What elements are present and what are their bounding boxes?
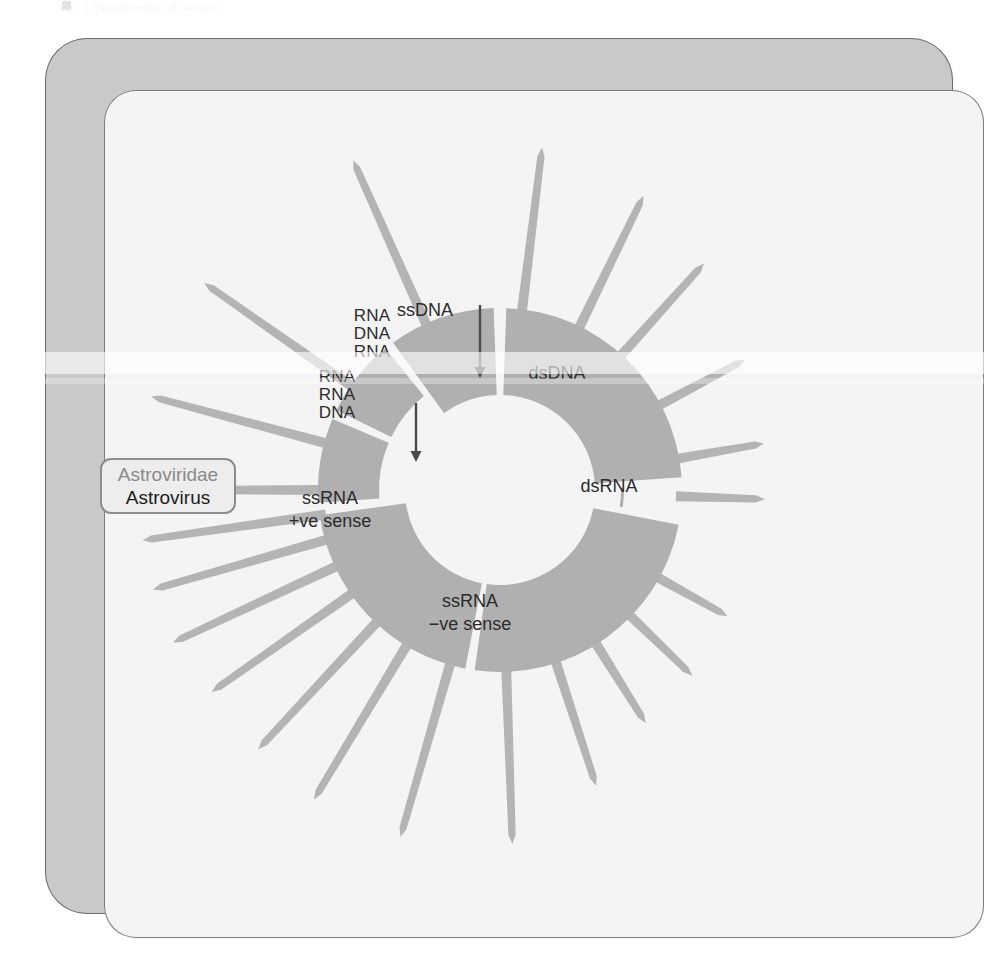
genome-label-dsrna: dsRNA	[580, 475, 637, 498]
highlight-genus-label: Astrovirus	[102, 487, 234, 509]
genome-label-rna-dna-rna-line2: DNA	[354, 325, 391, 343]
genome-label-rna-rna-dna-line1: RNA	[319, 368, 356, 386]
genome-label-dsdna: dsDNA	[528, 362, 585, 385]
genome-label-ssrna-pos-line1: ssRNA	[289, 487, 372, 510]
highlight-family-label: Astroviridae	[102, 464, 234, 486]
figure-page: Fig. 1 Classification of viruses ssDNAds…	[0, 0, 998, 970]
genome-label-ssrna-pos: ssRNA+ve sense	[289, 487, 372, 532]
genome-label-rna-rna-dna: RNARNADNA	[319, 368, 356, 422]
genome-label-rna-rna-dna-line2: RNA	[319, 386, 356, 404]
ghost-header-text: Fig. 1 Classification of viruses	[60, 2, 580, 13]
genome-label-ssrna-pos-line2: +ve sense	[289, 509, 372, 532]
genome-label-rna-dna-rna-line1: RNA	[354, 307, 391, 325]
genome-label-rna-rna-dna-line3: DNA	[319, 404, 356, 422]
genome-label-rna-dna-rna-line3: RNA	[354, 343, 391, 361]
genome-label-ssdna: ssDNA	[397, 299, 453, 322]
genome-label-rna-dna-rna: RNADNARNA	[354, 307, 391, 361]
genome-label-ssrna-neg-line1: ssRNA	[429, 590, 512, 613]
astrovirus-highlight-box[interactable]: Astroviridae Astrovirus	[100, 458, 236, 514]
genome-label-ssrna-neg-line2: −ve sense	[429, 612, 512, 635]
genome-label-ssrna-neg: ssRNA−ve sense	[429, 590, 512, 635]
figure-panel	[104, 90, 984, 938]
